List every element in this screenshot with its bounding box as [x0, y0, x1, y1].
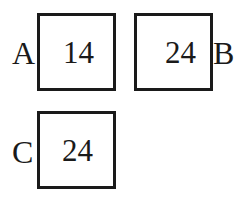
- box-label-a: A: [12, 37, 35, 69]
- box-b: 24: [134, 13, 213, 91]
- box-b-value: 24: [151, 37, 196, 68]
- box-label-c: C: [12, 136, 33, 168]
- box-c: 24: [37, 111, 116, 189]
- box-a: 14: [37, 13, 116, 91]
- box-c-value: 24: [60, 135, 93, 166]
- box-label-b: B: [213, 37, 234, 69]
- box-a-value: 14: [59, 37, 94, 68]
